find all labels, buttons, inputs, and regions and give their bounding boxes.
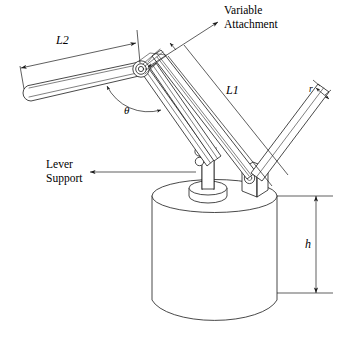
lever-support-label-line2: Support <box>46 172 82 185</box>
lever-support-label-line1: Lever <box>46 158 73 171</box>
l2-dimension-label: L2 <box>56 34 69 48</box>
l1-dimension-label: L1 <box>226 84 239 98</box>
r-dimension-label: r <box>309 84 313 95</box>
upper-right-arm <box>251 84 329 181</box>
theta-angle-label: θ <box>124 104 129 117</box>
h-dimension-label: h <box>305 238 311 252</box>
variable-attachment-label-line2: Attachment <box>224 18 278 31</box>
variable-attachment-leader <box>148 22 218 67</box>
lever-arm <box>23 62 146 101</box>
theta-angle <box>107 86 161 112</box>
lever-mechanism-diagram: L2 L1 θ r h Variable Attachment Lever Su… <box>0 0 339 347</box>
variable-attachment-label-line1: Variable <box>224 4 262 17</box>
